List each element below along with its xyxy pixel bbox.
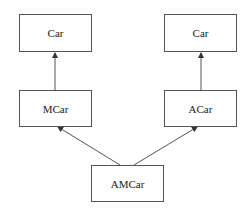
node-label: MCar <box>43 103 69 115</box>
node-label: Car <box>48 27 64 39</box>
edge-amcar-acar <box>134 127 197 165</box>
node-label: AMCar <box>111 178 145 190</box>
node-mcar: MCar <box>19 90 92 127</box>
node-car-right: Car <box>164 14 237 52</box>
node-amcar: AMCar <box>91 165 164 202</box>
node-label: Car <box>193 27 209 39</box>
edge-amcar-mcar <box>58 127 120 165</box>
node-car-left: Car <box>19 14 92 52</box>
node-label: ACar <box>189 103 213 115</box>
node-acar: ACar <box>164 90 237 127</box>
